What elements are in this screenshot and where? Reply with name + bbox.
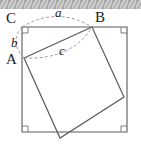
right-angle-marker-top-right — [121, 27, 127, 33]
inner-tilted-square — [24, 27, 124, 138]
side-label-c: c — [59, 43, 65, 58]
inner-square-group — [24, 27, 124, 138]
right-angle-marker-bottom-right — [121, 126, 127, 132]
side-label-b: b — [11, 35, 18, 50]
side-labels: a b c — [11, 5, 65, 58]
right-angle-marker-bottom-left — [22, 126, 28, 132]
pythagorean-figure: C B A a b c — [0, 0, 141, 148]
outer-square — [22, 27, 127, 132]
vertex-label-C: C — [6, 10, 16, 26]
right-angle-marker-top-left — [22, 27, 28, 33]
vertex-label-B: B — [95, 9, 105, 25]
vertex-label-A: A — [6, 51, 17, 67]
outer-square-group — [22, 27, 127, 132]
measure-arcs — [16, 17, 92, 59]
geometry-diagram: C B A a b c — [0, 0, 141, 148]
side-label-a: a — [55, 5, 62, 20]
